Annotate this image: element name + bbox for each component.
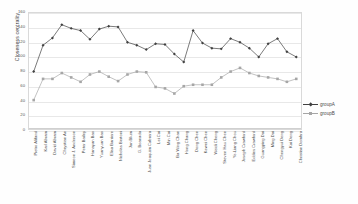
x-axis-tick-label: Pietro Alifand (34, 131, 38, 155)
data-point-groupA (107, 25, 110, 28)
data-point-groupB (276, 78, 279, 81)
x-axis-tick-label: Jan Blum (129, 131, 133, 148)
data-point-groupA (70, 27, 73, 30)
legend-item-groupA[interactable]: groupA (303, 100, 354, 109)
x-axis-tick-label: Chrystian An (63, 131, 67, 154)
y-axis-tick-labels: 020406080100120140160 (0, 12, 27, 130)
x-axis-tick-label: Peter Bailey (82, 131, 86, 153)
data-point-groupB (61, 72, 64, 75)
x-axis-tick-label: Kewei Chen (204, 131, 208, 153)
x-axis-tick-label: Ye-Liang Chou (233, 131, 237, 158)
data-point-groupA (32, 70, 35, 73)
y-axis-tick-label: 120 (18, 39, 25, 43)
data-point-groupA (126, 41, 129, 44)
data-point-groupB (164, 87, 167, 90)
data-point-groupB (192, 83, 195, 86)
chart-container: Closeness centrality 0204060801001201401… (0, 0, 358, 204)
legend-swatch-groupA (303, 101, 318, 108)
data-point-groupB (295, 78, 298, 81)
x-axis-tick-label: Elisa Barriere (110, 131, 114, 156)
data-point-groupB (117, 80, 120, 83)
x-axis-tick-label: G. Boanada (138, 131, 142, 153)
plot-area (28, 12, 302, 130)
x-axis-tick-label: Christian Dombra (299, 131, 303, 163)
data-point-groupB (182, 85, 185, 88)
data-point-groupB (248, 72, 251, 75)
x-axis-tick-label: Eddies Crawford (252, 131, 256, 162)
data-point-groupB (145, 71, 148, 74)
data-point-groupB (201, 83, 204, 86)
x-axis-tick-label: Hong Chang (185, 131, 189, 154)
x-axis-tick-label: Min Cai (167, 131, 171, 145)
x-axis-tick-label: Simeon J. Anderson (72, 131, 76, 168)
x-axis-tick-label: Dong Chen (195, 131, 199, 152)
x-axis-tick-label: Weidi Cheng (214, 131, 218, 155)
y-axis-tick-label: 100 (18, 54, 25, 58)
x-axis-tick-label: Yuanyuan Bao (100, 131, 104, 158)
legend-label-groupB: groupB (320, 111, 335, 116)
data-point-groupB (42, 78, 45, 81)
x-axis-tick-labels: Pietro AlifandKarl AbramDavid AbramChrys… (28, 131, 302, 203)
series-layer (29, 13, 301, 130)
data-point-groupB (98, 70, 101, 73)
data-point-groupB (229, 70, 232, 73)
data-point-groupB (70, 76, 73, 79)
data-point-groupB (32, 99, 35, 102)
x-axis-tick-label: Ming Dai (271, 131, 275, 147)
y-axis-tick-label: 60 (20, 84, 25, 88)
data-point-groupB (79, 81, 82, 84)
data-point-groupB (126, 73, 129, 76)
data-point-groupB (286, 81, 289, 84)
y-axis-tick-label: 40 (20, 98, 25, 102)
x-axis-tick-label: Hanayan Bao (91, 131, 95, 156)
chart-legend: groupA groupB (300, 97, 356, 121)
x-axis-tick-label: Lei Cai (157, 131, 161, 144)
x-axis-tick-label: David Abram (53, 131, 57, 155)
data-point-groupB (211, 83, 214, 86)
data-point-groupB (136, 70, 139, 73)
square-marker-icon (309, 112, 312, 115)
data-point-groupB (107, 75, 110, 78)
x-axis-tick-label: Steven Hau Chen (223, 131, 227, 164)
data-point-groupB (173, 92, 176, 95)
data-point-groupA (210, 47, 213, 50)
y-axis-tick-label: 20 (20, 113, 25, 117)
data-point-groupA (135, 44, 138, 47)
data-point-groupB (257, 75, 260, 78)
y-axis-tick-label: 0 (23, 128, 25, 132)
x-axis-tick-label: Karl Abram (44, 131, 48, 151)
data-point-groupB (239, 67, 242, 70)
x-axis-tick-label: Juan Joaquim Cabrera (148, 131, 152, 173)
x-axis-tick-label: Joseph Crawford (242, 131, 246, 162)
y-axis-tick-label: 160 (18, 10, 25, 14)
legend-swatch-groupB (303, 110, 318, 117)
data-point-groupB (89, 73, 92, 76)
x-axis-tick-label: Ba Wing Chan (176, 131, 180, 158)
data-point-groupB (51, 78, 54, 81)
y-axis-tick-label: 140 (18, 25, 25, 29)
x-axis-tick-label: Kai Deng (289, 131, 293, 148)
data-point-groupB (267, 76, 270, 79)
series-line-groupB (34, 68, 297, 100)
legend-label-groupA: groupA (320, 102, 335, 107)
legend-item-groupB[interactable]: groupB (303, 109, 354, 118)
x-axis-tick-label: Guangping Dai (261, 131, 265, 159)
data-point-groupB (220, 76, 223, 79)
data-point-groupB (154, 86, 157, 89)
series-line-groupA (34, 25, 297, 72)
diamond-marker-icon (308, 102, 313, 107)
x-axis-tick-label: Chengyui Deng (280, 131, 284, 159)
data-point-groupA (295, 55, 298, 58)
x-axis-tick-label: Nicholas Bertoni (119, 131, 123, 161)
y-axis-tick-label: 80 (20, 69, 25, 73)
